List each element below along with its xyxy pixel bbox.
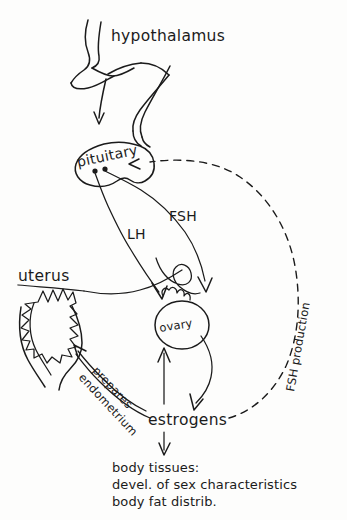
diagram-canvas: pituitary LH FSH [0,0,347,520]
feedback-arrowhead [129,159,140,169]
hypothalamus-label: hypothalamus [111,27,225,45]
estrogens-to-ovary-arrow [158,348,170,404]
fsh-label: FSH [169,208,197,224]
fsh-production-label: FSH production [283,301,313,393]
body-tissues-text-block: body tissues: devel. of sex characterist… [112,460,297,509]
svg-text:FSH production: FSH production [283,301,313,393]
uterus-label: uterus [18,267,70,285]
outcome-line-3: body fat distrib. [112,494,217,509]
fsh-production-feedback-line [150,160,298,418]
ovary-label: ovary [158,316,193,335]
outcome-line-2: devel. of sex characteristics [112,477,297,492]
lh-label: LH [127,226,146,242]
pituitary-label: pituitary [75,141,139,170]
ovary-shape [155,258,209,349]
outcome-line-1: body tissues: [112,460,199,475]
diagram-drawing: pituitary LH FSH [0,0,347,520]
estrogens-to-body-arrow [159,432,170,455]
estrogens-label: estrogens [148,411,227,429]
